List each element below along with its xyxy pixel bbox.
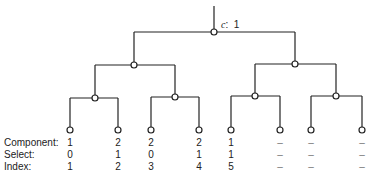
root-node — [211, 29, 217, 35]
node-l — [131, 62, 137, 68]
component-value: – — [305, 138, 317, 148]
node-r — [292, 61, 298, 67]
index-value: 2 — [112, 162, 124, 172]
leaf-2 — [115, 127, 121, 133]
leaf-3 — [148, 127, 154, 133]
select-value: 1 — [193, 150, 205, 160]
node-ll — [92, 95, 98, 101]
select-value: – — [274, 150, 286, 160]
node-lr — [172, 94, 178, 100]
index-value: – — [305, 162, 317, 172]
select-value: 1 — [112, 150, 124, 160]
node-rr — [333, 93, 339, 99]
component-value: 1 — [64, 138, 76, 148]
leaf-6 — [277, 127, 283, 133]
leaf-4 — [196, 127, 202, 133]
root-label: c: 1 — [221, 20, 239, 30]
index-value: 4 — [193, 162, 205, 172]
leaf-5 — [228, 127, 234, 133]
component-value: 1 — [225, 138, 237, 148]
leaf-7 — [308, 127, 314, 133]
select-value: 0 — [64, 150, 76, 160]
select-value: – — [305, 150, 317, 160]
component-value: 2 — [112, 138, 124, 148]
leaf-1 — [67, 127, 73, 133]
index-value: 5 — [225, 162, 237, 172]
component-value: – — [356, 138, 368, 148]
index-value: 1 — [64, 162, 76, 172]
leaf-8 — [359, 127, 365, 133]
select-value: 1 — [225, 150, 237, 160]
index-value: 3 — [145, 162, 157, 172]
select-value: – — [356, 150, 368, 160]
row-label-component: Component: — [4, 138, 58, 148]
index-value: – — [356, 162, 368, 172]
component-value: 2 — [145, 138, 157, 148]
row-label-index: Index: — [4, 162, 31, 172]
component-value: 2 — [193, 138, 205, 148]
root-variable: c — [221, 19, 225, 30]
row-label-select: Select: — [4, 150, 35, 160]
component-value: – — [274, 138, 286, 148]
select-value: 0 — [145, 150, 157, 160]
index-value: – — [274, 162, 286, 172]
node-rl — [252, 93, 258, 99]
root-value: 1 — [234, 19, 240, 30]
